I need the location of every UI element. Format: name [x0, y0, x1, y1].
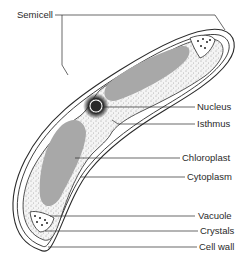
label-nucleus: Nucleus [197, 102, 231, 112]
label-isthmus: Isthmus [197, 119, 230, 129]
label-crystals: Crystals [200, 226, 234, 236]
label-semicell: Semicell [17, 10, 53, 20]
nucleus [83, 93, 109, 119]
label-chloroplast: Chloroplast [182, 153, 230, 163]
leader-semicell-right [62, 15, 225, 30]
label-vacuole: Vacuole [198, 211, 232, 221]
label-cell-wall: Cell wall [199, 242, 234, 252]
leader-semicell [55, 15, 68, 75]
label-cytoplasm: Cytoplasm [187, 172, 232, 182]
